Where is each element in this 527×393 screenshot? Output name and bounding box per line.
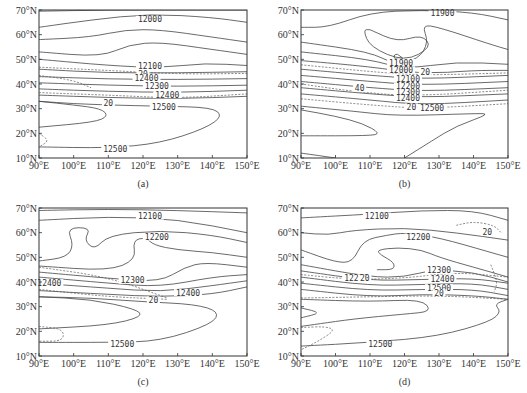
dashed-contour (39, 133, 47, 147)
dashed-contour (456, 223, 501, 233)
y-tick-label: 70°N (278, 5, 299, 16)
y-tick-label: 60°N (16, 29, 37, 40)
plot-frame (301, 208, 508, 356)
x-tick-label: 100°E (61, 358, 86, 369)
contour-label: 20 (407, 103, 417, 112)
contour-label: 12500 (368, 340, 392, 349)
panel-b: 1190011900120002012100401220012300124002… (278, 5, 521, 191)
contour-label: 12300 (121, 276, 145, 285)
y-tick-label: 30°N (278, 103, 299, 114)
solid-contour (39, 297, 140, 329)
solid-contour (39, 297, 217, 343)
contour-label: 12000 (138, 15, 162, 24)
x-tick-label: 120°E (392, 358, 417, 369)
solid-contour (39, 287, 247, 296)
x-tick-label: 150°E (234, 358, 259, 369)
y-tick-label: 40°N (278, 79, 299, 90)
x-tick-label: 130°E (426, 160, 451, 171)
y-tick-label: 50°N (16, 54, 37, 65)
panel-caption: (d) (399, 376, 411, 388)
contour-label: 20 (482, 228, 492, 237)
y-tick-label: 70°N (16, 203, 37, 214)
contour-label: 12400 (155, 91, 179, 100)
solid-contour (365, 30, 428, 58)
dashed-contour (39, 93, 247, 98)
contour-label: 12500 (420, 104, 444, 113)
x-tick-label: 120°E (130, 358, 155, 369)
x-tick-label: 120°E (392, 160, 417, 171)
contour-label: 12400 (176, 289, 200, 298)
panel-caption: (a) (137, 178, 148, 190)
x-tick-label: 110°E (96, 358, 121, 369)
x-tick-label: 140°E (461, 160, 486, 171)
y-tick-label: 30°N (278, 301, 299, 312)
solid-contour (301, 110, 377, 136)
contour-label: 12400 (37, 279, 61, 288)
solid-contour (301, 308, 317, 318)
contour-label: 12400 (430, 275, 454, 284)
x-tick-label: 130°E (426, 358, 451, 369)
contour-label: 12200 (145, 233, 169, 242)
solid-contour (301, 26, 508, 63)
y-tick-label: 40°N (278, 277, 299, 288)
x-tick-label: 130°E (165, 358, 190, 369)
x-tick-label: 120°E (130, 160, 155, 171)
contour-lines (301, 211, 508, 350)
y-tick-label: 10°N (278, 153, 299, 164)
solid-contour (39, 30, 247, 42)
x-tick-label: 150°E (234, 160, 259, 171)
y-tick-label: 60°N (278, 227, 299, 238)
solid-contour (39, 239, 247, 270)
solid-contour (301, 299, 508, 346)
y-tick-label: 70°N (278, 203, 299, 214)
y-tick-label: 10°N (16, 153, 37, 164)
panel-caption: (c) (137, 376, 148, 388)
contour-label: 40 (355, 84, 365, 93)
panel-caption: (b) (399, 178, 411, 190)
panel-d: 1210012200201220020123001240012500201250… (278, 203, 521, 389)
contour-label: 12100 (138, 212, 162, 221)
x-tick-label: 140°E (461, 358, 486, 369)
contour-label: 20 (104, 99, 114, 108)
solid-contour (301, 153, 336, 158)
x-tick-label: 110°E (358, 160, 383, 171)
y-tick-label: 30°N (16, 103, 37, 114)
contour-label: 12200 (406, 233, 430, 242)
dashed-contour (301, 327, 332, 350)
y-tick-label: 30°N (16, 301, 37, 312)
y-tick-label: 60°N (278, 29, 299, 40)
solid-contour (39, 101, 106, 127)
x-tick-label: 110°E (96, 160, 121, 171)
contour-label: 12500 (103, 145, 127, 154)
y-tick-label: 40°N (16, 277, 37, 288)
y-tick-label: 10°N (16, 351, 37, 362)
solid-contour (301, 106, 485, 158)
x-tick-label: 100°E (323, 358, 348, 369)
contour-label: 11900 (430, 9, 454, 18)
x-tick-label: 140°E (200, 358, 225, 369)
contour-label: 12500 (110, 340, 134, 349)
y-tick-label: 50°N (278, 252, 299, 263)
panel-a: 1200012100201240012300124002012500125009… (16, 5, 260, 191)
y-tick-label: 50°N (16, 252, 37, 263)
contour-label: 20 (434, 289, 444, 298)
figure: 1200012100201240012300124002012500125009… (0, 0, 527, 393)
panel-c: 1210012200123001240012400201250090°E100°… (16, 203, 260, 389)
y-tick-label: 60°N (16, 227, 37, 238)
solid-contour (301, 277, 508, 289)
solid-contour (301, 11, 508, 28)
x-tick-label: 110°E (358, 358, 383, 369)
solid-contour (39, 228, 247, 261)
y-tick-label: 20°N (278, 326, 299, 337)
contour-label: 20 (149, 296, 159, 305)
x-tick-label: 100°E (323, 160, 348, 171)
x-tick-label: 150°E (495, 160, 520, 171)
x-tick-label: 140°E (200, 160, 225, 171)
y-tick-label: 20°N (278, 128, 299, 139)
contour-label: 20 (360, 274, 370, 283)
y-tick-label: 40°N (16, 79, 37, 90)
y-tick-label: 20°N (16, 128, 37, 139)
x-tick-label: 100°E (61, 160, 86, 171)
y-tick-label: 20°N (16, 326, 37, 337)
y-tick-label: 10°N (278, 351, 299, 362)
